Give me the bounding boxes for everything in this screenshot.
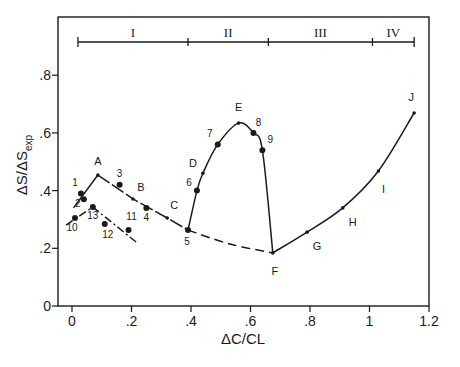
point-number-2: 2 bbox=[75, 198, 81, 209]
numbered-point-marker bbox=[72, 215, 78, 221]
y-axis-label: ΔS/ΔSexp bbox=[13, 134, 34, 195]
x-tick-label: .2 bbox=[126, 313, 138, 329]
data-markers: ABCDEFGHIJ12345678910111213 bbox=[66, 91, 416, 277]
plot-frame bbox=[58, 17, 429, 306]
point-label-J: J bbox=[408, 91, 414, 103]
region-label: III bbox=[314, 25, 327, 40]
point-number-5: 5 bbox=[184, 236, 190, 247]
series-rise-III-IV bbox=[273, 113, 414, 253]
region-label: II bbox=[224, 25, 233, 40]
labeled-point-marker bbox=[96, 173, 100, 177]
x-axis-label: ΔC/CL bbox=[221, 330, 265, 347]
x-tick-label: 0 bbox=[68, 313, 76, 329]
x-axis: 0.2.4.6.811.2 bbox=[68, 306, 439, 329]
y-tick-label: .2 bbox=[39, 240, 51, 256]
chart: IIIIIIIV 0.2.4.6.8 0.2.4.6.811.2 ABCDEFG… bbox=[0, 0, 460, 367]
point-label-A: A bbox=[94, 155, 102, 167]
point-number-9: 9 bbox=[268, 134, 274, 145]
y-axis: 0.2.4.6.8 bbox=[39, 67, 58, 314]
numbered-point-marker bbox=[194, 188, 200, 194]
numbered-point-marker bbox=[185, 227, 191, 233]
x-tick-label: .4 bbox=[185, 313, 197, 329]
point-number-8: 8 bbox=[256, 117, 262, 128]
numbered-point-marker bbox=[81, 196, 87, 202]
x-tick-label: 1 bbox=[366, 313, 374, 329]
numbered-point-marker bbox=[259, 147, 265, 153]
labeled-point-marker bbox=[271, 251, 275, 255]
point-label-H: H bbox=[349, 216, 357, 228]
point-number-3: 3 bbox=[117, 168, 123, 179]
labeled-point-marker bbox=[412, 111, 416, 115]
labeled-point-marker bbox=[305, 230, 309, 234]
point-label-G: G bbox=[313, 240, 322, 252]
point-label-D: D bbox=[189, 157, 197, 169]
point-number-10: 10 bbox=[66, 222, 78, 233]
x-tick-label: .6 bbox=[245, 313, 257, 329]
point-number-6: 6 bbox=[186, 177, 192, 188]
point-label-C: C bbox=[170, 199, 178, 211]
x-tick-label: 1.2 bbox=[419, 313, 439, 329]
y-tick-label: .4 bbox=[39, 183, 51, 199]
point-number-12: 12 bbox=[102, 229, 114, 240]
labeled-point-marker bbox=[377, 169, 381, 173]
numbered-point-marker bbox=[102, 221, 108, 227]
y-tick-label: .8 bbox=[39, 67, 51, 83]
region-bar: IIIIIIIV bbox=[78, 25, 414, 47]
numbered-point-marker bbox=[78, 190, 84, 196]
point-label-I: I bbox=[382, 183, 385, 195]
labeled-point-marker bbox=[165, 216, 169, 220]
numbered-point-marker bbox=[250, 130, 256, 136]
labeled-point-marker bbox=[341, 206, 345, 210]
point-number-13: 13 bbox=[87, 210, 99, 221]
numbered-point-marker bbox=[215, 141, 221, 147]
labeled-point-marker bbox=[237, 121, 241, 125]
numbered-point-marker bbox=[117, 182, 123, 188]
x-tick-label: .8 bbox=[304, 313, 316, 329]
region-label: IV bbox=[386, 25, 400, 40]
numbered-point-marker bbox=[126, 227, 132, 233]
point-label-B: B bbox=[137, 181, 144, 193]
point-label-F: F bbox=[271, 265, 278, 277]
point-label-E: E bbox=[235, 101, 242, 113]
series-baseline-dashed bbox=[188, 230, 273, 253]
region-label: I bbox=[131, 25, 135, 40]
point-number-7: 7 bbox=[207, 128, 213, 139]
series-loop-II bbox=[188, 123, 273, 253]
labeled-point-marker bbox=[201, 171, 205, 175]
point-number-4: 4 bbox=[144, 212, 150, 223]
y-tick-label: .6 bbox=[39, 125, 51, 141]
y-tick-label: 0 bbox=[43, 298, 51, 314]
point-number-11: 11 bbox=[126, 211, 137, 222]
point-number-1: 1 bbox=[72, 177, 78, 188]
numbered-point-marker bbox=[143, 205, 149, 211]
labeled-point-marker bbox=[131, 197, 135, 201]
